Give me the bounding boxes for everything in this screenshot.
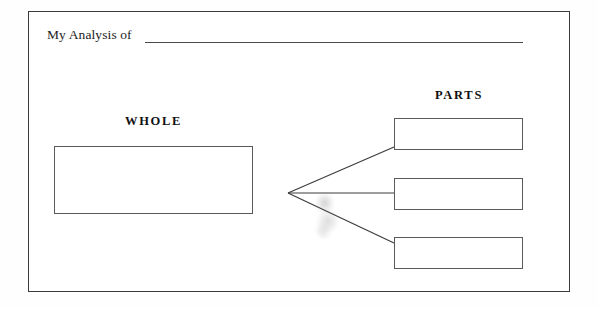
whole-answer-box[interactable] (54, 146, 253, 214)
part-answer-box-3[interactable] (394, 237, 523, 269)
parts-section-heading: PARTS (394, 88, 524, 103)
whole-section-heading: WHOLE (54, 114, 253, 129)
title-fill-in-line[interactable] (145, 42, 523, 43)
title-prefix-label: My Analysis of (47, 26, 132, 44)
part-answer-box-2[interactable] (394, 178, 523, 210)
part-answer-box-1[interactable] (394, 118, 523, 150)
title-row: My Analysis of (47, 26, 527, 48)
worksheet-page: My Analysis of WHOLE PARTS (0, 0, 598, 309)
